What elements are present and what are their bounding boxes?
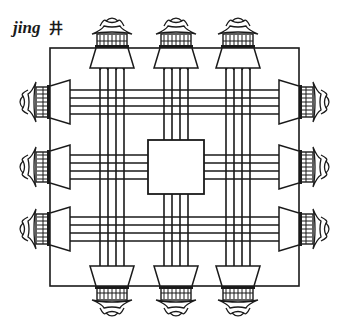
pavilion-roof-ridge <box>100 308 124 314</box>
pavilion-roof <box>92 300 132 308</box>
pavilion-base <box>299 85 302 119</box>
pavilion-roof <box>313 147 321 187</box>
pavilion-roof <box>313 82 321 122</box>
gate-pavilion-bottom <box>90 266 134 316</box>
pavilion-base <box>159 45 193 48</box>
pavilion-base <box>221 45 255 48</box>
pavilion-roof <box>218 26 258 34</box>
gate-trapezoid <box>50 80 70 124</box>
pavilion-roof-ridge <box>164 308 188 314</box>
pavilion-base <box>95 286 129 289</box>
gate-trapezoid <box>216 266 260 286</box>
gate-pavilion-right <box>279 80 329 124</box>
pavilion-roof <box>156 26 196 34</box>
pavilion-roof-ridge <box>22 90 28 114</box>
pavilion-base <box>221 286 255 289</box>
pavilion-roof-ridge <box>321 90 327 114</box>
pavilion-roof <box>92 26 132 34</box>
gate-pavilion-top <box>216 18 260 68</box>
gate-trapezoid <box>154 48 198 68</box>
gate-trapezoid <box>50 145 70 189</box>
gate-trapezoid <box>279 145 299 189</box>
gate-trapezoid <box>50 207 70 251</box>
pavilion-roof-ridge <box>321 155 327 179</box>
pavilion-roof <box>28 209 36 249</box>
gate-pavilion-left <box>20 145 70 189</box>
pavilion-base <box>47 85 50 119</box>
pavilion-roof <box>156 300 196 308</box>
gate-trapezoid <box>279 207 299 251</box>
pavilion-roof <box>313 209 321 249</box>
gate-trapezoid <box>90 48 134 68</box>
pavilion-roof <box>28 147 36 187</box>
pavilion-roof-ridge <box>100 20 124 26</box>
pavilion-roof <box>28 82 36 122</box>
pavilion-roof-ridge <box>321 217 327 241</box>
pavilion-base <box>47 212 50 246</box>
pavilion-base <box>299 212 302 246</box>
pavilion-roof-ridge <box>164 20 188 26</box>
gate-pavilion-left <box>20 207 70 251</box>
pavilion-roof-ridge <box>22 155 28 179</box>
gate-pavilion-bottom <box>216 266 260 316</box>
pavilion-base <box>299 150 302 184</box>
gate-trapezoid <box>90 266 134 286</box>
gate-trapezoid <box>154 266 198 286</box>
gate-pavilion-right <box>279 207 329 251</box>
gate-pavilion-right <box>279 145 329 189</box>
pavilion-base <box>159 286 193 289</box>
gate-pavilion-top <box>90 18 134 68</box>
pavilion-roof-ridge <box>226 20 250 26</box>
pavilion-roof-ridge <box>22 217 28 241</box>
jing-diagram <box>0 0 343 334</box>
pavilion-base <box>95 45 129 48</box>
pavilion-base <box>47 150 50 184</box>
gate-trapezoid <box>216 48 260 68</box>
gate-pavilion-bottom <box>154 266 198 316</box>
gate-trapezoid <box>279 80 299 124</box>
gate-pavilion-top <box>154 18 198 68</box>
gate-pavilion-left <box>20 80 70 124</box>
pavilion-roof-ridge <box>226 308 250 314</box>
pavilion-roof <box>218 300 258 308</box>
center-square <box>148 140 204 194</box>
